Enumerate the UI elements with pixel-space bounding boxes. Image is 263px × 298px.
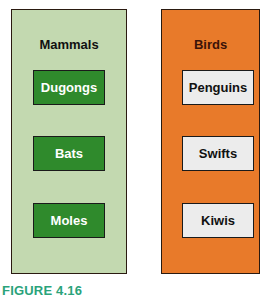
item-dugongs: Dugongs	[33, 70, 105, 105]
figure-caption: FIGURE 4.16	[2, 283, 82, 298]
item-kiwis: Kiwis	[182, 203, 254, 238]
birds-panel: Birds Penguins Swifts Kiwis	[161, 9, 260, 274]
mammals-title: Mammals	[12, 37, 126, 52]
item-penguins: Penguins	[182, 70, 254, 105]
item-moles: Moles	[33, 203, 105, 238]
birds-title: Birds	[162, 37, 259, 52]
mammals-panel: Mammals Dugongs Bats Moles	[11, 9, 127, 274]
item-bats: Bats	[33, 136, 105, 171]
item-swifts: Swifts	[182, 136, 254, 171]
